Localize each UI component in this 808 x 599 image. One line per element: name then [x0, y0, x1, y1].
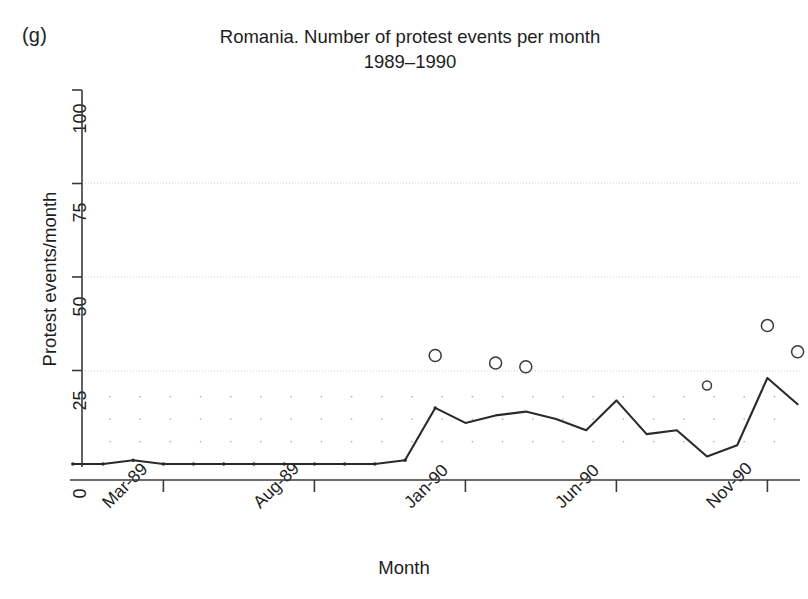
gridlines — [82, 183, 800, 371]
x-tick-marks — [163, 480, 767, 492]
chart-figure: (g) Romania. Number of protest events pe… — [0, 0, 808, 599]
plot-area — [0, 0, 808, 599]
series-line-protest-events — [73, 378, 798, 464]
y-tick-marks — [72, 90, 82, 464]
outlier-circle-markers — [429, 320, 803, 390]
scan-speckles — [109, 396, 775, 443]
series-vertex-dots — [71, 406, 437, 466]
axes — [70, 90, 800, 480]
